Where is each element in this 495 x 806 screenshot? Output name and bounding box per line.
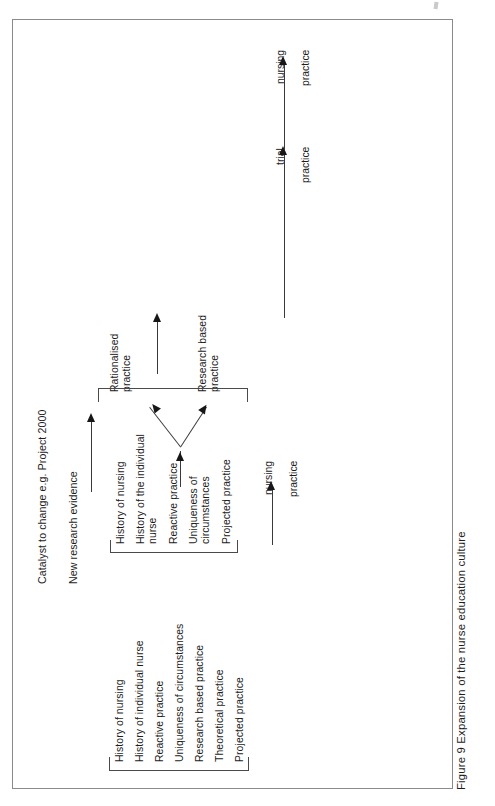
- initial-culture-item-0: History of nursing: [114, 679, 126, 762]
- timeline-stage1-bottom-label: practice: [288, 461, 299, 497]
- initial-culture-item-4: Research based practice: [194, 645, 206, 762]
- expanded-culture-item-2: Reactive practice: [168, 463, 180, 544]
- catalyst-arrow-shaft: [91, 420, 92, 492]
- rationalised-to-research-shaft: [157, 320, 158, 374]
- timeline-stage3-top-label: nursing: [275, 50, 286, 84]
- figure-caption: Figure 9 Expansion of the nurse educatio…: [455, 531, 467, 790]
- initial-culture-item-6: Projected practice: [234, 677, 246, 762]
- timeline-shaft-stage2: [284, 180, 285, 318]
- catalyst-arrow-head: [87, 413, 95, 422]
- expanded-culture-item-3: Uniqueness of circumstances: [188, 476, 213, 544]
- fork-stem-head: [176, 452, 184, 461]
- initial-culture-item-1: History of individual nurse: [134, 640, 146, 762]
- initial-culture-item-2: Reactive practice: [154, 681, 166, 762]
- expanded-culture-item-1: History of the individual nurse: [135, 434, 160, 544]
- expanded-culture-item-0: History of nursing: [115, 461, 127, 544]
- timeline-stage3-bottom-label: practice: [300, 50, 311, 86]
- rationalised-to-research-head: [153, 313, 161, 322]
- expanded-culture-item-4: Projected practice: [221, 459, 233, 544]
- outcomes-brace: [98, 388, 248, 402]
- initial-culture-brace: [109, 757, 249, 771]
- timeline-stage2-top-label: trial: [275, 148, 286, 165]
- rationalised-practice-label: Rationalised practice: [109, 334, 134, 392]
- fork-branch-lower-head: [198, 403, 210, 415]
- timeline-shaft-stage1: [272, 487, 273, 545]
- new-research-evidence-label: New research evidence: [67, 471, 79, 584]
- fork-branch-upper-head: [149, 401, 161, 413]
- initial-culture-item-3: Uniqueness of circumstances: [174, 624, 186, 762]
- initial-culture-item-5: Theoretical practice: [214, 669, 226, 762]
- scan-artifact-speck: [434, 2, 439, 9]
- research-based-practice-label: Research based practice: [197, 315, 222, 392]
- diagram-stage: Catalyst to change e.g. Project 2000 New…: [12, 19, 452, 787]
- catalyst-heading: Catalyst to change e.g. Project 2000: [36, 410, 48, 584]
- timeline-stage1-top-label: nursing: [263, 461, 274, 495]
- expanded-culture-brace: [110, 540, 238, 553]
- timeline-stage2-bottom-label: practice: [300, 147, 311, 183]
